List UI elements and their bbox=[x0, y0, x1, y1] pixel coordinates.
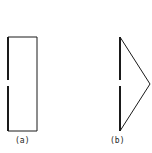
diagram-canvas: (a) (b) bbox=[0, 0, 152, 153]
figure-b-triangle bbox=[120, 37, 150, 131]
figure-a-rectangle bbox=[8, 37, 37, 131]
figure-a-label: (a) bbox=[15, 136, 29, 145]
figures-svg bbox=[0, 0, 152, 153]
figure-b-label: (b) bbox=[110, 136, 124, 145]
tri-outline bbox=[120, 37, 150, 131]
rect-outline bbox=[8, 37, 37, 131]
